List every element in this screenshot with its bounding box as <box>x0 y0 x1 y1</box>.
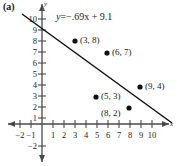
data-point-marker <box>93 94 98 99</box>
point-label-9-4: (9, 4) <box>145 81 165 91</box>
x-tick-label: 5 <box>93 130 101 140</box>
data-point-marker <box>72 38 77 43</box>
x-tick-label: 7 <box>115 130 123 140</box>
y-tick-label: −2 <box>22 141 37 151</box>
x-tick-label: 3 <box>71 130 79 140</box>
x-tick-label: 4 <box>82 130 90 140</box>
y-axis-name: y <box>44 0 47 8</box>
y-tick-label: 2 <box>24 102 37 112</box>
y-tick-label: 10 <box>24 14 37 24</box>
x-tick-label: 1 <box>49 130 57 140</box>
scatter-plot-figure: (a) <box>0 0 177 166</box>
y-tick-label: 3 <box>24 91 37 101</box>
y-tick-label: 1 <box>24 113 37 123</box>
y-tick-label: 7 <box>24 47 37 57</box>
x-tick-label: 6 <box>104 130 112 140</box>
y-tick-label: 9 <box>24 25 37 35</box>
equation-rhs: −.69x + 9.1 <box>66 11 112 22</box>
x-tick-label: 10 <box>146 130 158 140</box>
point-label-5-3: (5, 3) <box>101 91 121 101</box>
y-tick-label: 6 <box>24 58 37 68</box>
point-label-3-8: (3, 8) <box>80 35 100 45</box>
x-tick-label: 9 <box>137 130 145 140</box>
y-tick-label: 4 <box>24 80 37 90</box>
data-point-marker <box>104 50 109 55</box>
regression-equation-label: y=−.69x + 9.1 <box>56 11 112 22</box>
point-label-6-7: (6, 7) <box>112 47 132 57</box>
x-axis-name: x <box>170 120 173 128</box>
x-tick-label: 2 <box>60 130 68 140</box>
x-tick-label: −1 <box>25 130 37 140</box>
data-point-marker <box>126 105 131 110</box>
y-tick-label: 8 <box>24 36 37 46</box>
y-tick-label: 5 <box>24 69 37 79</box>
data-point-marker <box>137 84 142 89</box>
x-tick-label: 8 <box>126 130 134 140</box>
point-label-8-2: (8, 2) <box>101 108 121 118</box>
